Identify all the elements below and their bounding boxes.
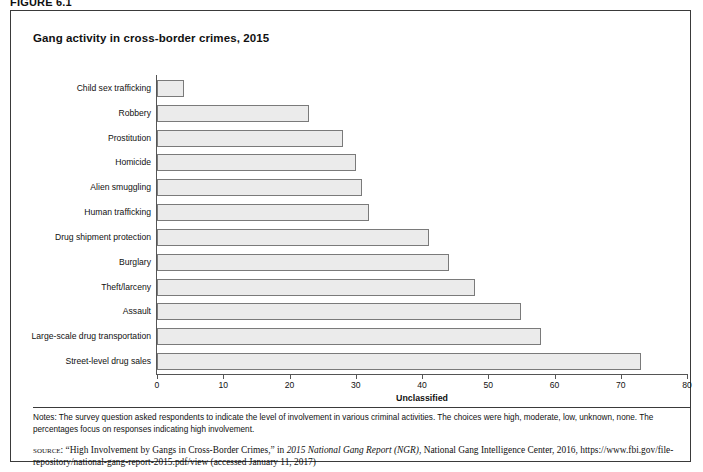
bar-row: Assault bbox=[157, 300, 687, 325]
category-label: Prostitution bbox=[108, 130, 151, 147]
bar bbox=[157, 154, 356, 171]
bar-row: Theft/larceny bbox=[157, 275, 687, 300]
bar-row: Alien smuggling bbox=[157, 175, 687, 200]
x-axis-tick-label: 30 bbox=[351, 380, 361, 390]
bar bbox=[157, 130, 343, 147]
bar bbox=[157, 303, 521, 320]
category-label: Child sex trafficking bbox=[77, 80, 151, 97]
bar-row: Large-scale drug transportation bbox=[157, 324, 687, 349]
x-axis-tick bbox=[223, 374, 224, 379]
x-axis-tick-label: 0 bbox=[155, 380, 160, 390]
figure-number-label: FIGURE 6.1 bbox=[10, 0, 72, 8]
bar bbox=[157, 328, 541, 345]
chart-title: Gang activity in cross-border crimes, 20… bbox=[33, 32, 269, 44]
category-label: Burglary bbox=[119, 254, 151, 271]
x-axis-tick bbox=[621, 374, 622, 379]
bar-row: Burglary bbox=[157, 250, 687, 275]
bar bbox=[157, 204, 369, 221]
x-axis-tick bbox=[488, 374, 489, 379]
source-kicker: source: bbox=[33, 445, 63, 455]
category-label: Assault bbox=[123, 303, 151, 320]
notes-divider bbox=[33, 407, 690, 408]
x-axis-tick-label: 50 bbox=[483, 380, 493, 390]
x-axis-tick bbox=[356, 374, 357, 379]
bar-row: Robbery bbox=[157, 101, 687, 126]
x-axis-title: Unclassified bbox=[157, 393, 687, 403]
x-axis-tick bbox=[687, 374, 688, 379]
source-italic-title: 2015 National Gang Report (NGR) bbox=[287, 445, 419, 455]
bar-row: Drug shipment protection bbox=[157, 225, 687, 250]
category-label: Alien smuggling bbox=[90, 179, 151, 196]
x-axis-tick-label: 70 bbox=[616, 380, 626, 390]
x-axis-tick-label: 20 bbox=[285, 380, 295, 390]
x-axis-tick bbox=[157, 374, 158, 379]
bar bbox=[157, 353, 641, 370]
source-text-part1: “High Involvement by Gangs in Cross-Bord… bbox=[63, 445, 286, 455]
category-label: Homicide bbox=[115, 154, 151, 171]
bar bbox=[157, 105, 309, 122]
bar bbox=[157, 229, 429, 246]
bar bbox=[157, 254, 449, 271]
x-axis-tick-label: 40 bbox=[417, 380, 427, 390]
x-axis-tick bbox=[290, 374, 291, 379]
bar-row: Child sex trafficking bbox=[157, 76, 687, 101]
bar-chart-plot-area: Child sex traffickingRobberyProstitution… bbox=[157, 76, 687, 374]
x-axis-tick bbox=[555, 374, 556, 379]
bar bbox=[157, 80, 184, 97]
x-axis-tick-label: 60 bbox=[550, 380, 560, 390]
category-label: Robbery bbox=[119, 105, 151, 122]
chart-notes: Notes: The survey question asked respond… bbox=[33, 412, 691, 435]
x-axis-tick bbox=[422, 374, 423, 379]
category-label: Street-level drug sales bbox=[65, 353, 151, 370]
category-label: Large-scale drug transportation bbox=[32, 328, 151, 345]
category-label: Human trafficking bbox=[84, 204, 151, 221]
category-label: Theft/larceny bbox=[101, 279, 151, 296]
source-citation: source: “High Involvement by Gangs in Cr… bbox=[33, 444, 691, 469]
bar bbox=[157, 279, 475, 296]
x-axis-tick-label: 10 bbox=[218, 380, 228, 390]
x-axis-tick-label: 80 bbox=[682, 380, 692, 390]
bar-row: Human trafficking bbox=[157, 200, 687, 225]
bar-row: Street-level drug sales bbox=[157, 349, 687, 374]
category-label: Drug shipment protection bbox=[55, 229, 151, 246]
bar-row: Prostitution bbox=[157, 126, 687, 151]
figure-container: Gang activity in cross-border crimes, 20… bbox=[10, 10, 691, 462]
bar bbox=[157, 179, 362, 196]
bar-row: Homicide bbox=[157, 151, 687, 176]
